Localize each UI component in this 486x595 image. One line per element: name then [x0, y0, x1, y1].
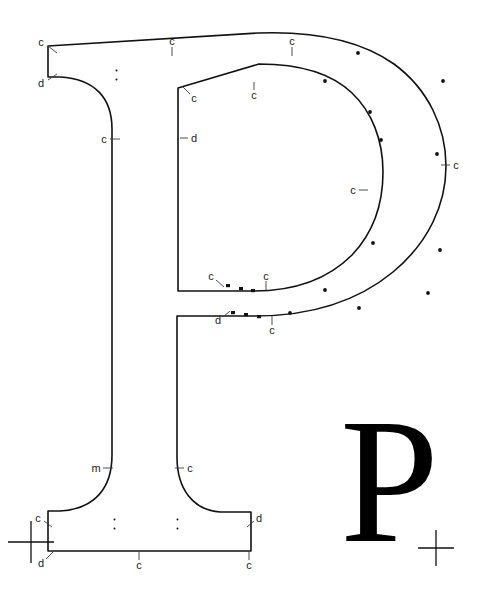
annotation-label-c: c [101, 134, 107, 145]
annotation-label-d: d [256, 513, 262, 524]
control-point-dot [371, 241, 375, 245]
control-point-dot [435, 152, 439, 156]
node-tick [239, 287, 243, 290]
dot-pair-marker-icon [177, 519, 180, 530]
node-tick [257, 315, 261, 318]
annotation-label-c: c [251, 90, 257, 101]
dot-pair-marker-icon [116, 70, 119, 81]
control-point-dot [323, 79, 327, 83]
node-tick-group [226, 284, 261, 318]
annotation-label-d: d [38, 558, 44, 569]
control-point-dot [426, 291, 430, 295]
annotation-leader-line [216, 280, 224, 287]
control-point-dot [288, 311, 292, 315]
control-point-dot [323, 288, 327, 292]
node-tick [231, 311, 235, 314]
annotation-label-c: c [35, 513, 41, 524]
annotation-label-c: c [263, 271, 269, 282]
annotation-label-d: d [215, 315, 221, 326]
control-point-dot [438, 248, 442, 252]
letterform-diagram-sheet: cdccccdcccccdcmccdcdc P [0, 0, 486, 595]
annotation-label-c: c [169, 36, 175, 47]
annotation-label-c: c [350, 185, 356, 196]
control-point-dot [441, 79, 445, 83]
annotation-label-d: d [38, 78, 44, 89]
specimen-letter-p: P [340, 392, 439, 570]
annotation-leader-line [183, 87, 190, 94]
annotation-label-c: c [289, 36, 295, 47]
annotation-leader-line [48, 46, 57, 53]
node-tick [244, 313, 248, 316]
annotation-label-c: c [191, 93, 197, 104]
annotation-label-c: c [187, 463, 193, 474]
annotation-leader-line [46, 552, 53, 559]
annotation-label-c: c [453, 160, 459, 171]
control-point-dot [368, 110, 372, 114]
control-point-dot [379, 138, 383, 142]
annotation-label-c: c [38, 37, 44, 48]
glyph-bowl-counter [178, 64, 383, 291]
annotation-label-m: m [91, 463, 100, 474]
annotation-label-d: d [191, 133, 197, 144]
annotation-label-c: c [136, 560, 142, 571]
node-tick [251, 289, 255, 292]
registration-crosshair-icon [8, 521, 54, 563]
dot-pair-marker-icon [114, 519, 117, 530]
annotation-label-c: c [208, 271, 214, 282]
annotation-label-c: c [246, 560, 252, 571]
annotation-label-c: c [269, 325, 275, 336]
control-point-dot [356, 51, 360, 55]
node-tick [226, 284, 230, 287]
control-point-dot [357, 306, 361, 310]
